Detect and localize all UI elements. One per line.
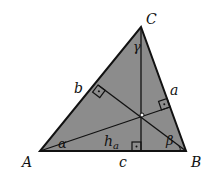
angle-label-beta: β bbox=[165, 133, 174, 148]
triangle-diagram: C A B c b a γ α β ha bbox=[0, 0, 212, 180]
altitude-label-main: h bbox=[104, 133, 113, 149]
side-label-b: b bbox=[74, 80, 83, 96]
vertex-label-c: C bbox=[146, 11, 157, 27]
side-label-c: c bbox=[119, 154, 127, 170]
side-label-a: a bbox=[170, 82, 178, 98]
angle-label-alpha: α bbox=[58, 136, 67, 151]
vertex-label-a: A bbox=[20, 154, 32, 170]
angle-label-gamma: γ bbox=[133, 39, 141, 54]
vertex-label-b: B bbox=[190, 154, 201, 170]
diagram-svg: C A B c b a γ α β ha bbox=[0, 0, 212, 180]
altitude-label-sub: a bbox=[113, 140, 119, 151]
orthocenter-point bbox=[140, 113, 144, 117]
